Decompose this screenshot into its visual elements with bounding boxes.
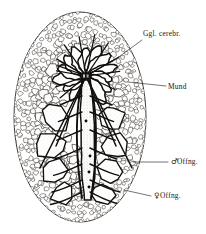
central-ganglion [81,73,92,79]
cell [135,150,140,154]
cell [42,47,46,50]
midline-dot [88,186,91,189]
cell [122,96,128,101]
ganglion-highlight [83,74,85,77]
cell [70,25,74,30]
female-symbol-icon: ♀ [154,191,160,200]
label-ganglion-cerebrale: Ggl. cerebr. [143,29,181,38]
cell [24,162,27,166]
cell [118,101,124,106]
cell [49,183,55,188]
cell [31,108,36,113]
midline-dot [88,171,91,174]
cell [58,206,61,209]
cell [45,34,49,38]
label-female-opening: Offng. [160,191,181,200]
ganglion-highlight-2 [87,74,89,77]
label-male-opening: Offng. [177,157,198,166]
anatomical-plate: Ggl. cerebr. Mund ♂ Offng. ♀ Offng. [0,0,206,234]
figure-root: Ggl. cerebr. Mund ♂ Offng. ♀ Offng. [0,0,206,234]
label-mund: Mund [168,82,187,91]
cell [117,180,122,185]
cell [38,52,42,56]
cell [131,145,136,149]
cell [33,59,39,65]
midline-dot [85,120,88,123]
ganglion-body [81,73,92,79]
cell [125,69,130,73]
midline-dot [89,155,92,158]
